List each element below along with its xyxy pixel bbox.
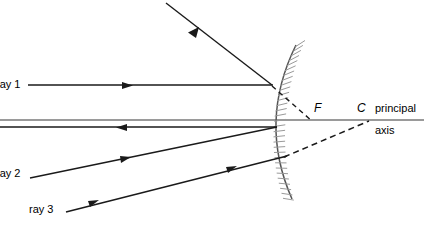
ray1-incident-arrow	[122, 82, 133, 89]
ray1-reflected-line	[166, 3, 272, 85]
ray3-label: ray 3	[29, 204, 53, 215]
center-of-curvature-label: C	[357, 102, 366, 114]
principal-axis-label-line2: axis	[375, 125, 395, 136]
ray2-reflected-arrow	[116, 124, 127, 131]
ray3-dashed-to-center	[284, 121, 369, 157]
principal-axis-label-line1: principal	[375, 103, 416, 114]
focal-point-label: F	[314, 102, 321, 114]
ray1-label: ray 1	[0, 79, 20, 90]
ray2-incident-arrow	[120, 156, 131, 163]
ray1-reflected-arrow	[188, 27, 199, 38]
ray2-incident-line	[30, 127, 277, 178]
ray2-label: ray 2	[0, 168, 20, 179]
concave-mirror-arc	[276, 45, 296, 199]
optics-ray-diagram: ray 1 ray 2 ray 3 F C principal axis	[0, 0, 424, 228]
